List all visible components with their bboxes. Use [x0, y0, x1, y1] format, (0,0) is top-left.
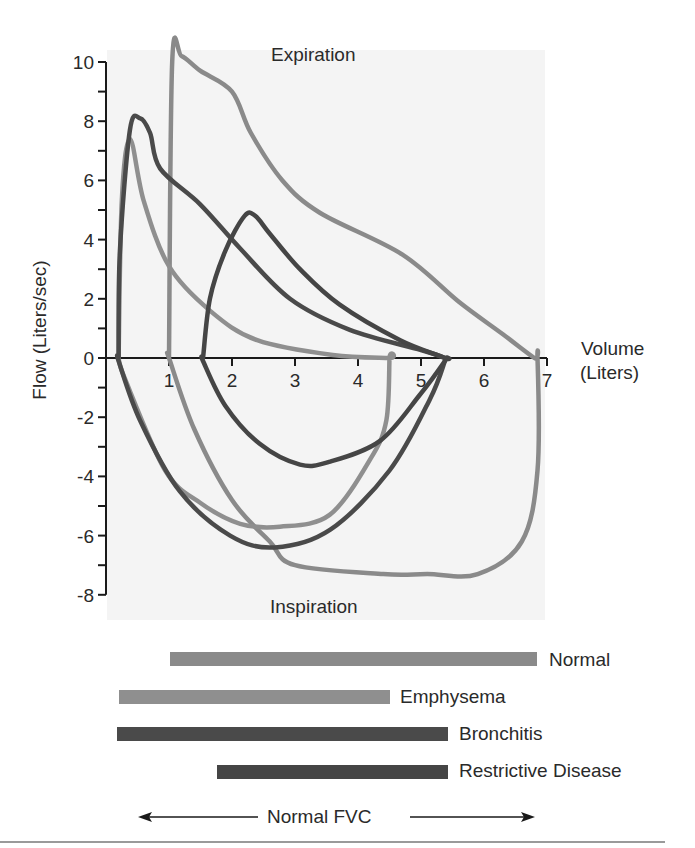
legend-bronchitis: Bronchitis	[459, 723, 542, 745]
fvc-bar-emphysema	[119, 690, 390, 704]
y-tick-label: -2	[77, 407, 94, 428]
y-tick-label: 4	[83, 230, 94, 251]
y-tick-label: -6	[77, 526, 94, 547]
y-tick-label: 10	[73, 52, 94, 73]
y-tick-label: -8	[77, 585, 94, 606]
fvc-bar-bronchitis	[117, 727, 448, 741]
y-tick-label: 0	[83, 348, 94, 369]
y-tick-label: 2	[83, 289, 94, 310]
x-axis-label-liters: (Liters)	[580, 362, 639, 384]
y-tick-label: -4	[77, 466, 94, 487]
legend-normal: Normal	[549, 649, 610, 671]
normal-fvc-label: Normal FVC	[267, 806, 372, 828]
x-tick-label: 3	[290, 370, 301, 391]
fvc-bar-restrictive-disease	[217, 765, 448, 779]
y-axis-label: Flow (Liters/sec)	[29, 260, 51, 399]
flow-volume-chart: 1086420-2-4-6-8 1234567	[0, 0, 695, 848]
x-tick-label: 2	[227, 370, 238, 391]
x-tick-label: 7	[542, 370, 553, 391]
x-tick-label: 4	[353, 370, 364, 391]
legend-restrictive-disease: Restrictive Disease	[459, 760, 622, 782]
legend-emphysema: Emphysema	[400, 686, 506, 708]
x-tick-label: 6	[479, 370, 490, 391]
expiration-label: Expiration	[271, 44, 356, 66]
x-axis-label-volume: Volume	[581, 338, 644, 360]
y-tick-label: 8	[83, 111, 94, 132]
fvc-bar-normal	[170, 652, 537, 666]
inspiration-label: Inspiration	[270, 596, 358, 618]
y-tick-label: 6	[83, 170, 94, 191]
y-tick-labels: 1086420-2-4-6-8	[73, 52, 95, 606]
